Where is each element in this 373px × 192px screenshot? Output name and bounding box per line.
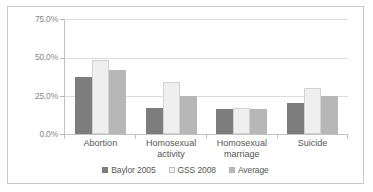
legend-item-average[interactable]: Average: [229, 165, 269, 175]
chart-container: 75.0% 50.0% 25.0% 0.0% Abortion: [7, 6, 364, 184]
bar-group: [65, 19, 136, 134]
bar[interactable]: [163, 82, 180, 134]
plot-area: [64, 19, 348, 135]
chart-plot-wrapper: 75.0% 50.0% 25.0% 0.0% Abortion: [8, 7, 363, 183]
legend-swatch-icon: [229, 167, 235, 173]
legend-item-baylor-2005[interactable]: Baylor 2005: [102, 165, 155, 175]
x-category-label-suicide: Suicide: [277, 138, 348, 149]
bar[interactable]: [180, 96, 197, 134]
legend-swatch-icon: [102, 167, 108, 173]
bar[interactable]: [75, 77, 92, 134]
y-tick-label-50: 50.0%: [16, 53, 58, 62]
bar[interactable]: [250, 109, 267, 134]
y-tick-mark-25: [60, 96, 64, 97]
bar[interactable]: [146, 108, 163, 134]
bar[interactable]: [92, 60, 109, 134]
x-axis-labels: Abortion Homosexual activity Homosexual …: [65, 138, 348, 164]
x-category-label-line1: Homosexual: [136, 138, 207, 149]
x-category-label-line1: Suicide: [277, 138, 348, 149]
x-category-label-abortion: Abortion: [65, 138, 136, 149]
bar[interactable]: [321, 96, 338, 134]
x-category-label-line2: activity: [136, 149, 207, 160]
y-tick-label-25: 25.0%: [16, 92, 58, 101]
y-tick-label-75: 75.0%: [16, 15, 58, 24]
bars-layer: [65, 19, 348, 134]
bar[interactable]: [216, 109, 233, 134]
bar-group: [277, 19, 348, 134]
bar-group: [136, 19, 207, 134]
legend-item-label: Average: [238, 165, 269, 175]
chart-legend: Baylor 2005 GSS 2008 Average: [8, 163, 363, 177]
legend-swatch-icon: [169, 167, 175, 173]
legend-item-label: Baylor 2005: [111, 165, 155, 175]
bar[interactable]: [233, 108, 250, 134]
bar[interactable]: [287, 103, 304, 134]
x-category-label-line1: Abortion: [65, 138, 136, 149]
y-tick-mark-50: [60, 58, 64, 59]
legend-item-label: GSS 2008: [178, 165, 216, 175]
legend-item-gss-2008[interactable]: GSS 2008: [169, 165, 216, 175]
bar[interactable]: [304, 88, 321, 134]
x-category-label-line2: marriage: [207, 149, 278, 160]
x-category-label-line1: Homosexual: [207, 138, 278, 149]
bar[interactable]: [109, 70, 126, 134]
x-category-label-homosexual-marriage: Homosexual marriage: [207, 138, 278, 160]
x-category-label-homosexual-activity: Homosexual activity: [136, 138, 207, 160]
y-tick-label-0: 0.0%: [16, 130, 58, 139]
y-tick-mark-75: [60, 19, 64, 20]
y-axis-labels: 75.0% 50.0% 25.0% 0.0%: [16, 7, 58, 183]
bar-group: [207, 19, 278, 134]
